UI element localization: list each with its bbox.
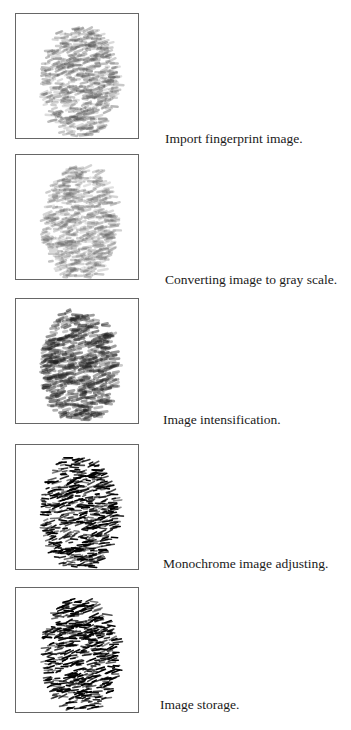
fingerprint-image	[15, 154, 139, 280]
step-caption: Converting image to gray scale.	[165, 272, 337, 288]
fingerprint-image	[15, 587, 139, 713]
step-caption: Image intensification.	[163, 412, 281, 428]
step-caption: Monochrome image adjusting.	[163, 556, 328, 572]
fingerprint-icon	[16, 588, 138, 712]
fingerprint-image	[15, 13, 139, 139]
fingerprint-icon	[16, 445, 138, 569]
fingerprint-icon	[16, 14, 138, 138]
fingerprint-image	[15, 298, 139, 424]
fingerprint-icon	[16, 299, 138, 423]
fingerprint-image	[15, 444, 139, 570]
step-caption: Image storage.	[160, 697, 239, 713]
step-caption: Import fingerprint image.	[165, 131, 303, 147]
fingerprint-icon	[16, 155, 138, 279]
